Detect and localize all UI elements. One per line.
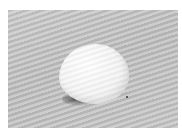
white-pebble bbox=[59, 44, 129, 104]
photo: A smooth white pebble resting on a grey … bbox=[8, 10, 178, 128]
dark-speck bbox=[126, 96, 128, 98]
